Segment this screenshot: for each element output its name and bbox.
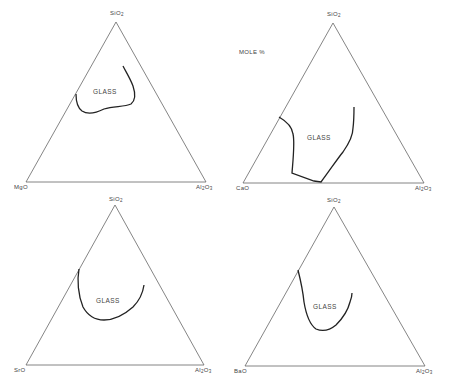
glass-region-label: GLASS bbox=[307, 134, 331, 141]
vertex-label-al2o3: Al2O3 bbox=[196, 184, 213, 192]
vertex-label-mgo: MgO bbox=[14, 184, 28, 190]
triangle-sro bbox=[26, 205, 204, 365]
apex-label-sio2: SiO2 bbox=[327, 197, 341, 205]
vertex-label-bao: BaO bbox=[234, 368, 247, 374]
triangle-bao bbox=[245, 207, 425, 366]
vertex-label-al2o3: Al2O3 bbox=[195, 367, 212, 375]
apex-label-sio2: SiO2 bbox=[327, 11, 341, 19]
glass-boundary-cao bbox=[279, 107, 354, 182]
vertex-label-al2o3: Al2O3 bbox=[415, 185, 432, 193]
units-label: MOLE % bbox=[239, 49, 265, 55]
glass-boundary-bao bbox=[298, 270, 352, 330]
apex-label-sio2: SiO2 bbox=[110, 10, 124, 18]
glass-region-label: GLASS bbox=[313, 303, 337, 310]
triangle-mgo bbox=[26, 22, 206, 182]
glass-region-label: GLASS bbox=[93, 88, 117, 95]
triangle-cao bbox=[243, 23, 424, 183]
vertex-label-al2o3: Al2O3 bbox=[416, 368, 433, 376]
diagram-lines bbox=[0, 0, 452, 388]
glass-region-label: GLASS bbox=[96, 297, 120, 304]
glass-boundary-sro bbox=[78, 269, 144, 320]
vertex-label-cao: CaO bbox=[236, 185, 249, 191]
ternary-phase-diagrams: SiO2 MgO Al2O3 GLASS SiO2 MOLE % CaO Al2… bbox=[0, 0, 452, 388]
apex-label-sio2: SiO2 bbox=[109, 196, 123, 204]
vertex-label-sro: SrO bbox=[14, 367, 26, 373]
